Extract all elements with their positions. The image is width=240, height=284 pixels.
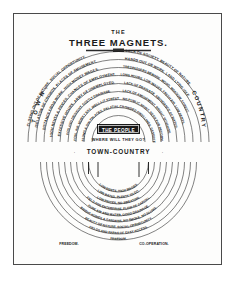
tc-right-dot: . — [162, 150, 163, 154]
pole-label-town-country: TOWN-COUNTRY — [87, 148, 151, 155]
tc-line-1: LOW RENTS, HIGH WAGES. — [98, 182, 139, 193]
people-magnet: THE PEOPLE WHERE WILL THEY GO? — [92, 124, 146, 142]
town-country-magnet-top-lines: BEAUTY OF NATURE. SOCIAL OPPORTUNITY. FI… — [84, 216, 153, 235]
town-magnet: CLOSING OUT OF NATURE. SOCIAL OPPORTUNIT… — [14, 14, 119, 142]
people-label: THE PEOPLE — [102, 128, 135, 133]
three-magnets-diagram: THE THREE MAGNETS. T O W N . COUNTRY. CL… — [14, 14, 223, 266]
tc-freedom: FREEDOM. — [59, 242, 79, 246]
tc-line-7: FREEDOM. — [110, 237, 127, 241]
tc-left-dot: . — [74, 150, 75, 154]
page-title-line2: THREE MAGNETS. — [69, 37, 168, 48]
tc-cooperation: CO-OPERATION. — [139, 242, 169, 246]
diagram-frame: THE THREE MAGNETS. T O W N . COUNTRY. CL… — [13, 13, 222, 265]
page-title-line1: THE — [111, 29, 125, 35]
people-question: WHERE WILL THEY GO? — [92, 137, 146, 142]
